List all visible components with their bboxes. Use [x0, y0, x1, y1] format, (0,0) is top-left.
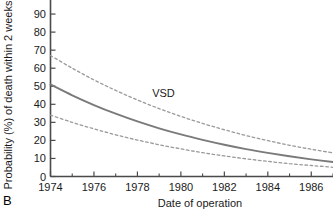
y-tick-label: 90 [34, 8, 46, 20]
y-tick-label: 20 [34, 134, 46, 146]
x-axis-title-text: Date of operation [158, 197, 242, 209]
x-tick-label: 1982 [212, 181, 236, 193]
x-tick-label: 1986 [299, 181, 323, 193]
y-tick-label: 30 [34, 116, 46, 128]
y-axis-tick-labels: 0102030405060708090100 [28, 0, 46, 183]
probability-of-death-chart: Probability (%) of death within 2 weeks … [0, 0, 333, 213]
series-annotation-vsd: VSD [152, 87, 175, 99]
x-tick-label: 1978 [125, 181, 149, 193]
y-tick-label: 10 [34, 152, 46, 164]
x-axis-title: Date of operation [158, 197, 242, 209]
y-tick-label: 60 [34, 62, 46, 74]
x-tick-label: 1974 [38, 181, 62, 193]
x-axis-tick-labels: 1974197619781980198219841986 [38, 181, 323, 193]
chart-annotations: VSD [152, 87, 175, 99]
x-tick-label: 1980 [169, 181, 193, 193]
data-series-group [51, 56, 333, 168]
x-tick-label: 1976 [82, 181, 106, 193]
y-tick-label: 70 [34, 44, 46, 56]
y-axis-title: Probability (%) of death within 2 weeks [2, 0, 14, 189]
y-tick-label: 50 [34, 80, 46, 92]
y-tick-label: 40 [34, 98, 46, 110]
y-tick-label: 100 [28, 0, 46, 2]
y-tick-label: 80 [34, 26, 46, 38]
x-tick-label: 1984 [256, 181, 280, 193]
series-line-confidence [51, 115, 333, 167]
y-axis-title-text: Probability (%) of death within 2 weeks [2, 0, 14, 189]
panel-label-b: B [3, 193, 12, 208]
figure-panel-b: Probability (%) of death within 2 weeks … [0, 0, 333, 213]
